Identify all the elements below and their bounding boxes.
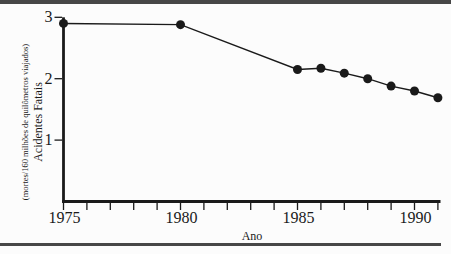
x-tick-label: 1980 — [166, 209, 198, 226]
x-tick-label: 1975 — [49, 209, 81, 226]
y-tick-label: 1 — [45, 131, 53, 148]
data-point — [293, 65, 302, 74]
x-axis-title: Ano — [63, 229, 441, 244]
y-axis-subtitle: (mortes/160 milhões de quilômetros viaja… — [20, 44, 30, 200]
data-point — [176, 20, 185, 29]
data-point — [363, 74, 372, 83]
line-chart: 1975198019851990123 — [0, 0, 451, 254]
data-point — [410, 86, 419, 95]
y-axis-title: Acidentes Fatais — [31, 82, 46, 162]
data-point — [316, 64, 325, 73]
y-tick-label: 2 — [45, 70, 53, 87]
data-point — [433, 93, 442, 102]
data-line — [64, 23, 438, 97]
bottom-rule — [0, 243, 441, 246]
data-point — [387, 82, 396, 91]
data-point — [59, 19, 68, 28]
x-tick-label: 1985 — [283, 209, 315, 226]
y-tick-label: 3 — [45, 8, 53, 25]
data-point — [340, 69, 349, 78]
figure: 1975198019851990123 Acidentes Fatais (mo… — [0, 0, 451, 254]
x-tick-label: 1990 — [400, 209, 432, 226]
